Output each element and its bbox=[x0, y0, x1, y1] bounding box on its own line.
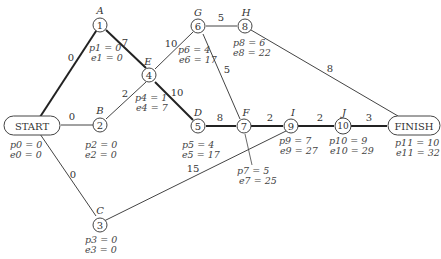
weight-9-10: 2 bbox=[317, 112, 323, 123]
node-7-letter: F bbox=[242, 107, 251, 118]
node-2-num: 2 bbox=[97, 120, 103, 131]
edge-8-finish bbox=[251, 30, 398, 116]
node-5-letter: D bbox=[193, 107, 202, 118]
weight-7-9: 2 bbox=[267, 112, 273, 123]
node-finish-label: FINISH bbox=[394, 121, 433, 132]
node-8-e: e8 = 22 bbox=[233, 47, 271, 58]
node-9-e: e9 = 27 bbox=[280, 145, 319, 156]
weight-3-9: 15 bbox=[187, 163, 200, 174]
node-8-letter: H bbox=[241, 7, 251, 18]
node-8-num: 8 bbox=[242, 21, 248, 32]
weight-2-4: 2 bbox=[122, 88, 128, 99]
node-2-letter: B bbox=[95, 105, 103, 116]
node-6-e: e6 = 17 bbox=[179, 54, 218, 65]
node-10-e: e10 = 29 bbox=[330, 145, 374, 156]
node-9-num: 9 bbox=[288, 121, 294, 132]
node-7-num: 7 bbox=[241, 121, 247, 132]
node-10-num: 10 bbox=[337, 121, 349, 131]
node-2-e: e2 = 0 bbox=[85, 149, 117, 160]
node-10-letter: J bbox=[340, 107, 347, 118]
node-3-e: e3 = 0 bbox=[85, 244, 117, 255]
p7-leader-line bbox=[245, 134, 252, 165]
node-9-letter: I bbox=[290, 107, 296, 118]
node-finish-e: e11 = 32 bbox=[396, 147, 440, 158]
weight-start-2: 0 bbox=[69, 111, 75, 122]
node-1-letter: A bbox=[95, 5, 103, 16]
weight-8-finish: 8 bbox=[327, 63, 333, 74]
node-6-num: 6 bbox=[195, 21, 201, 32]
node-start: START p0 = 0 e0 = 0 bbox=[4, 116, 60, 160]
node-8: H 8 p8 = 6 e8 = 22 bbox=[233, 7, 271, 58]
node-7-e: e7 = 25 bbox=[239, 175, 277, 186]
node-1-e: e1 = 0 bbox=[91, 52, 123, 63]
edge-start-1 bbox=[40, 25, 100, 117]
weight-4-6: 10 bbox=[165, 38, 178, 49]
node-4-letter: E bbox=[143, 56, 152, 67]
activity-network-diagram: 0 0 0 7 2 10 10 5 5 8 2 15 2 3 8 START p… bbox=[0, 0, 441, 259]
weight-start-3: 0 bbox=[70, 169, 76, 180]
weight-1-4: 7 bbox=[122, 37, 128, 48]
weight-6-7: 5 bbox=[224, 64, 230, 75]
node-3: C 3 p3 = 0 e3 = 0 bbox=[85, 205, 117, 255]
weight-10-finish: 3 bbox=[366, 112, 372, 123]
node-3-letter: C bbox=[96, 205, 104, 216]
node-3-num: 3 bbox=[97, 220, 103, 231]
node-1-num: 1 bbox=[97, 20, 103, 31]
node-finish: FINISH p11 = 10 e11 = 32 bbox=[388, 116, 440, 158]
node-start-label: START bbox=[15, 121, 50, 132]
node-5-e: e5 = 17 bbox=[182, 149, 221, 160]
node-6: G 6 p6 = 4 e6 = 17 bbox=[178, 7, 218, 65]
node-6-letter: G bbox=[194, 7, 202, 18]
weight-start-1: 0 bbox=[68, 52, 74, 63]
weight-4-5: 10 bbox=[171, 87, 184, 98]
weight-5-7: 8 bbox=[217, 112, 223, 123]
node-4: E 4 p4 = 1 e4 = 7 bbox=[135, 56, 169, 113]
weight-6-8: 5 bbox=[218, 12, 224, 23]
node-start-e: e0 = 0 bbox=[10, 149, 42, 160]
node-4-num: 4 bbox=[146, 70, 152, 81]
node-4-e: e4 = 7 bbox=[136, 102, 169, 113]
node-5-num: 5 bbox=[195, 121, 201, 132]
